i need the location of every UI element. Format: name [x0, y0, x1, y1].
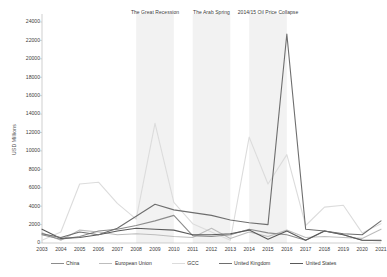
legend-item-label: GCC — [187, 261, 198, 266]
x-axis-tick-label: 2005 — [74, 247, 85, 252]
legend-swatch-icon — [172, 263, 185, 264]
legend-item[interactable]: European Union — [99, 261, 151, 266]
x-axis-tick-label: 2006 — [93, 247, 104, 252]
x-axis-tick-label: 2017 — [300, 247, 311, 252]
x-axis-tick-label: 2008 — [130, 247, 141, 252]
x-axis-tick-label: 2007 — [112, 247, 123, 252]
legend-item[interactable]: United States — [290, 261, 336, 266]
x-axis-tick-labels: 2003200420052006200720082009201020112012… — [0, 0, 387, 277]
legend-item-label: United Kingdom — [234, 261, 270, 266]
x-axis-tick-label: 2018 — [319, 247, 330, 252]
x-axis-tick-label: 2013 — [225, 247, 236, 252]
legend-item-label: European Union — [115, 261, 152, 266]
x-axis-tick-label: 2014 — [243, 247, 254, 252]
x-axis-tick-label: 2020 — [356, 247, 367, 252]
legend-swatch-icon — [51, 263, 64, 264]
legend-item-label: United States — [306, 261, 337, 266]
x-axis-tick-label: 2004 — [55, 247, 66, 252]
legend-item-label: China — [66, 261, 79, 266]
x-axis-tick-label: 2011 — [187, 247, 198, 252]
x-axis-tick-label: 2012 — [206, 247, 217, 252]
legend-swatch-icon — [290, 263, 303, 264]
legend-swatch-icon — [219, 263, 232, 264]
legend-item[interactable]: GCC — [172, 261, 199, 266]
x-axis-tick-label: 2010 — [168, 247, 179, 252]
x-axis-tick-label: 2021 — [375, 247, 386, 252]
line-chart: USD Millions 020004000600080001000012000… — [0, 0, 387, 277]
x-axis-tick-label: 2019 — [338, 247, 349, 252]
legend-swatch-icon — [99, 263, 112, 264]
legend-item[interactable]: United Kingdom — [219, 261, 271, 266]
x-axis-tick-label: 2015 — [262, 247, 273, 252]
x-axis-tick-label: 2009 — [149, 247, 160, 252]
legend-item[interactable]: China — [51, 261, 80, 266]
x-axis-tick-label: 2016 — [281, 247, 292, 252]
chart-legend: ChinaEuropean UnionGCCUnited KingdomUnit… — [0, 261, 387, 275]
x-axis-tick-label: 2003 — [36, 247, 47, 252]
